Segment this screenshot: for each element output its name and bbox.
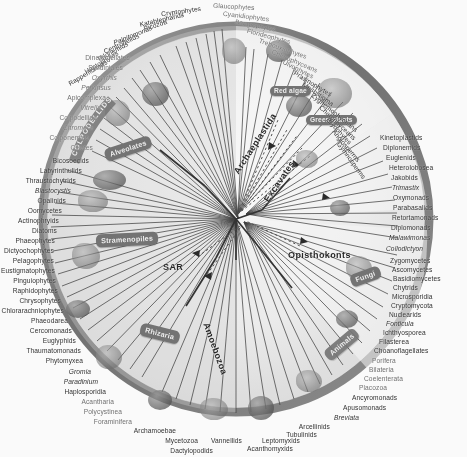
taxon-label: Cercomonads: [30, 328, 72, 335]
taxon-label: Fonticula: [386, 321, 414, 328]
taxon-label: Thraustochytrids: [26, 178, 76, 185]
taxon-label: Jakobids: [391, 175, 418, 182]
taxon-label: Raphidophytes: [13, 288, 58, 295]
organism-illustration: [286, 95, 312, 117]
taxon-label: Chrysophytes: [19, 298, 61, 305]
taxon-label: Diplonemids: [383, 145, 420, 152]
taxon-label: Phaeodarea: [31, 318, 68, 325]
taxon-label: Coelenterata: [364, 376, 403, 383]
taxon-label: Colponemids: [49, 135, 89, 142]
taxon-label: Oxymonads: [393, 195, 429, 202]
taxon-label: Syndiniales: [88, 65, 123, 72]
taxon-label: Euglyphids: [43, 338, 76, 345]
organism-illustration: [142, 82, 169, 106]
taxon-label: Diatoms: [32, 228, 57, 235]
taxon-label: Polycystinea: [84, 409, 122, 416]
taxon-label: Parabasalids: [393, 205, 432, 212]
taxon-label: Vannellids: [211, 438, 242, 445]
taxon-label: Blastocystis: [35, 188, 71, 195]
taxon-label: Foraminifera: [94, 419, 132, 426]
taxon-label: Ciliates: [71, 145, 93, 152]
organism-illustration: [200, 398, 228, 420]
taxon-label: Ancyromonads: [352, 395, 397, 402]
taxon-label: Pinguiophytes: [13, 278, 56, 285]
taxon-label: Apicomplexa: [67, 95, 106, 102]
taxon-label: Phytomyxea: [46, 358, 83, 365]
taxon-label: Oomycetes: [28, 208, 62, 215]
taxon-label: Paradinium: [64, 379, 98, 386]
organism-illustration: [248, 396, 274, 420]
taxon-label: Acanthomyxids: [247, 446, 293, 453]
taxon-label: Arcellinids: [299, 424, 330, 431]
taxon-label: Acantharia: [81, 399, 114, 406]
taxon-label: Bicosoecids: [53, 158, 89, 165]
organism-illustration: [96, 345, 122, 369]
taxon-label: Chromera: [63, 125, 93, 132]
organism-illustration: [105, 100, 130, 126]
taxon-label: Perkinsus: [81, 85, 111, 92]
taxon-label: Actinophryids: [18, 218, 59, 225]
taxon-label: Archamoebae: [134, 428, 176, 435]
taxon-label: Zygomycetes: [390, 258, 430, 265]
taxon-label: Labyrinthulids: [40, 168, 82, 175]
taxon-label: Oxyrrhis: [92, 75, 117, 82]
taxon-label: Choanoflagellates: [374, 348, 429, 355]
taxon-label: Dictyochophytes: [4, 248, 54, 255]
organism-illustration: [296, 150, 318, 168]
taxon-label: Thaumatomonads: [26, 348, 81, 355]
organism-illustration: [330, 200, 350, 216]
organism-illustration: [78, 190, 108, 212]
taxon-label: Collodictyon: [386, 246, 423, 253]
taxon-label: Malawimonas: [389, 235, 430, 242]
taxon-label: Colpodellida: [60, 115, 98, 122]
taxon-label: Vitrella: [80, 105, 101, 112]
red-algae-line1: Red algae: [274, 87, 307, 94]
taxon-label: Opalinids: [38, 198, 66, 205]
taxon-label: Pelagophytes: [13, 258, 54, 265]
taxon-label: Leptomyxids: [262, 438, 300, 445]
organism-illustration: [66, 300, 90, 318]
taxon-label: Chytrids: [393, 285, 418, 292]
taxon-label: Euglenids: [386, 155, 416, 162]
taxon-label: Heterolobosea: [389, 165, 433, 172]
taxon-label: Mycetozoa: [165, 438, 198, 445]
taxon-label: Basidiomycetes: [393, 276, 441, 283]
taxon-label: Diplomonads: [391, 225, 431, 232]
taxon-label: Dinoflagellates: [85, 55, 130, 62]
taxon-label: Phaeophytes: [15, 238, 55, 245]
taxon-label: Cryptomycota: [391, 303, 433, 310]
taxon-label: Gromia: [69, 369, 91, 376]
taxon-label: Chlorarachniophytes: [2, 308, 64, 315]
taxon-label: Placozoa: [359, 385, 387, 392]
taxon-label: Bilateria: [369, 367, 394, 374]
eukaryote-tree-figure: COLPODELLIDS SAR Archaeplastida Excavate…: [0, 0, 467, 457]
organism-illustration: [336, 310, 358, 328]
organism-illustration: [93, 170, 126, 190]
taxon-label: Haplosporidia: [64, 389, 106, 396]
supergroup-opisthokonts: Opisthokonts: [288, 250, 351, 260]
taxon-label: Retortamonads: [392, 215, 438, 222]
taxon-label: Porifera: [372, 358, 396, 365]
organism-illustration: [222, 38, 246, 64]
organism-illustration: [148, 390, 172, 410]
taxon-label: Microsporidia: [392, 294, 433, 301]
taxon-label: Apusomonads: [343, 405, 386, 412]
supergroup-sar: SAR: [163, 262, 183, 272]
taxon-label: Filasterea: [379, 339, 409, 346]
taxon-label: Trimastix: [392, 185, 419, 192]
taxon-label: Breviata: [334, 415, 359, 422]
taxon-label: Dactylopodids: [170, 448, 213, 455]
taxon-label: Nuclearids: [389, 312, 421, 319]
organism-illustration: [296, 370, 322, 392]
taxon-label: Ichthyosporea: [383, 330, 426, 337]
taxon-label: Kinetoplastids: [380, 135, 422, 142]
taxon-label: Eustigmatophytes: [1, 268, 55, 275]
organism-illustration: [72, 243, 100, 269]
taxon-label: Ascomycetes: [392, 267, 432, 274]
